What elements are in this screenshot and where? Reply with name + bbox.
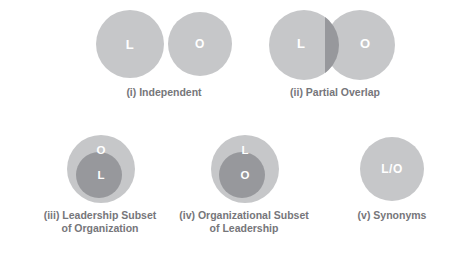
venn-stage-partial-overlap: L O (263, 8, 407, 80)
venn-stage-synonyms: L/O (336, 133, 448, 205)
caption-organizational-subset: (iv) Organizational Subset of Leadership (160, 209, 328, 234)
circle-label-leadership: L (293, 37, 309, 50)
panel-synonyms: L/O (v) Synonyms (336, 133, 448, 251)
caption-independent: (i) Independent (96, 86, 232, 99)
circle-label-leadership: L (236, 145, 254, 157)
circle-label-organization: O (357, 37, 373, 50)
venn-stage-independent: L O (96, 8, 232, 80)
panel-partial-overlap: L O (ii) Partial Overlap (263, 8, 407, 104)
panel-organizational-subset: L O (iv) Organizational Subset of Leader… (160, 133, 328, 251)
caption-partial-overlap: (ii) Partial Overlap (263, 86, 407, 99)
caption-leadership-subset: (iii) Leadership Subset of Organization (22, 209, 178, 234)
circle-label-leadership-organization: L/O (381, 163, 403, 175)
circle-label-leadership: L (92, 170, 110, 182)
circle-label-leadership: L (126, 38, 134, 51)
intersection-region (325, 10, 339, 80)
caption-synonyms: (v) Synonyms (336, 209, 448, 222)
panel-independent: L O (i) Independent (96, 8, 232, 104)
circle-organization: O (168, 12, 232, 76)
panel-leadership-subset: O L (iii) Leadership Subset of Organizat… (22, 133, 178, 251)
circle-leadership-organization: L/O (360, 137, 424, 201)
venn-stage-organizational-subset: L O (160, 133, 328, 205)
circle-label-organization: O (195, 38, 205, 50)
venn-figure: L O (i) Independent L O (ii) Partial Ove… (0, 0, 457, 258)
venn-stage-leadership-subset: O L (22, 133, 178, 205)
circle-label-organization: O (236, 170, 254, 182)
circle-label-organization: O (92, 145, 110, 157)
circle-leadership: L (96, 10, 164, 78)
